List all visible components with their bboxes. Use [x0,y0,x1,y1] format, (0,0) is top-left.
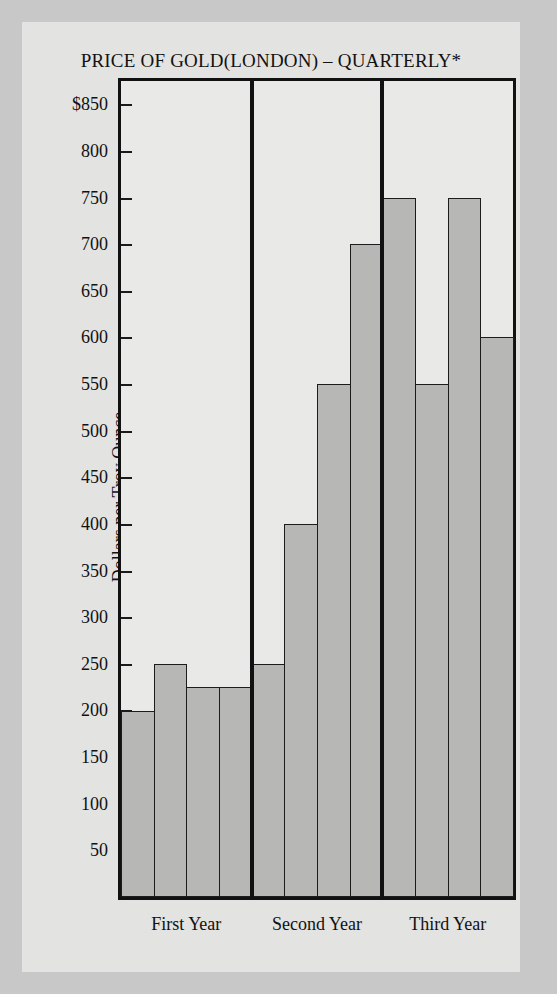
y-tick-mark [121,104,132,106]
x-group-label-1: First Year [116,914,256,935]
y-tick-label: $850 [72,94,108,115]
y-tick-mark [121,244,132,246]
figure-panel: PRICE OF GOLD(LONDON) – QUARTERLY* Dolla… [22,22,520,972]
chart-title: PRICE OF GOLD(LONDON) – QUARTERLY* [22,50,520,72]
y-tick-mark [121,431,132,433]
y-tick-label: 200 [81,700,108,721]
x-group-label-3: Third Year [378,914,518,935]
y-tick-mark [121,477,132,479]
y-tick-mark [121,384,132,386]
y-tick-mark [121,337,132,339]
y-tick-label: 50 [90,840,108,861]
bar-11 [448,198,482,897]
bar-2 [154,664,188,897]
y-tick-label: 550 [81,374,108,395]
y-tick-mark [121,571,132,573]
bar-12 [480,337,514,897]
y-tick-mark [121,524,132,526]
plot-inner: $850800750700650600550500450400350300250… [121,81,513,897]
y-tick-label: 700 [81,234,108,255]
y-tick-label: 150 [81,747,108,768]
bar-9 [382,198,416,897]
bar-8 [350,244,384,897]
y-tick-label: 450 [81,467,108,488]
y-tick-mark [121,617,132,619]
y-tick-mark [121,291,132,293]
y-tick-label: 800 [81,140,108,161]
y-tick-label: 250 [81,653,108,674]
y-tick-label: 500 [81,420,108,441]
bar-6 [284,524,318,897]
y-tick-mark [121,151,132,153]
bar-4 [219,687,253,897]
x-group-label-2: Second Year [247,914,387,935]
bar-10 [415,384,449,897]
y-tick-label: 650 [81,280,108,301]
y-tick-label: 750 [81,187,108,208]
y-tick-label: 100 [81,793,108,814]
bar-1 [121,711,155,898]
bar-7 [317,384,351,897]
y-tick-label: 300 [81,607,108,628]
y-tick-label: 350 [81,560,108,581]
group-divider-2 [380,81,384,897]
group-divider-1 [250,81,254,897]
bar-5 [252,664,286,897]
y-tick-label: 400 [81,513,108,534]
y-tick-mark [121,198,132,200]
y-tick-mark [121,664,132,666]
bar-3 [186,687,220,897]
y-tick-label: 600 [81,327,108,348]
plot-area: $850800750700650600550500450400350300250… [118,78,516,900]
